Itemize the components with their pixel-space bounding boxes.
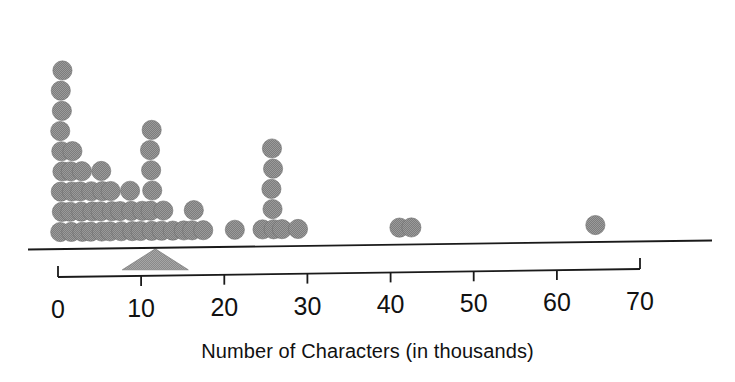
data-dot (52, 101, 71, 120)
data-dot (225, 220, 244, 239)
data-dot (402, 218, 421, 237)
axis-tick-label: 70 (626, 287, 654, 315)
data-dot (263, 159, 282, 178)
axis-tick-label: 0 (51, 295, 65, 323)
data-dot (140, 140, 159, 159)
dot-stacks-layer (51, 61, 605, 242)
data-dot (120, 181, 139, 200)
data-dot (142, 161, 161, 180)
axis-tick-label: 50 (460, 289, 488, 317)
data-dot (154, 201, 173, 220)
dot-plot-figure: 010203040506070 Number of Characters (in… (0, 0, 735, 382)
axis-tick-label: 10 (127, 294, 155, 322)
data-dot (101, 181, 120, 200)
data-dot (53, 61, 72, 80)
axis-tick-label: 30 (293, 292, 321, 320)
data-dot (143, 181, 162, 200)
data-dot (586, 215, 605, 234)
data-dot (92, 161, 111, 180)
data-dot (263, 199, 282, 218)
data-dot (142, 120, 161, 139)
data-dot (184, 201, 203, 220)
data-dot (288, 219, 307, 238)
balance-point-marker (122, 249, 188, 270)
data-dot (72, 162, 91, 181)
data-dot (63, 142, 82, 161)
data-dot (262, 139, 281, 158)
data-dot (194, 221, 213, 240)
data-dot (262, 179, 281, 198)
axis-tick-label: 20 (210, 293, 238, 321)
axis-tick-label: 60 (543, 288, 571, 316)
dot-plot-canvas: 010203040506070 (0, 0, 735, 382)
fulcrum-triangle-icon (122, 249, 188, 270)
x-axis-caption: Number of Characters (in thousands) (0, 340, 735, 363)
data-dot (51, 121, 70, 140)
axis-rule (58, 269, 640, 277)
axis-tick-label: 40 (377, 290, 405, 318)
data-dot (51, 81, 70, 100)
baseline-rule (28, 241, 712, 250)
